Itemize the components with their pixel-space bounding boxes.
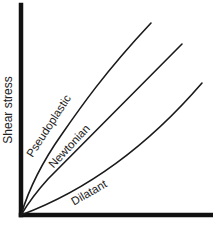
y-axis-label: Shear stress <box>1 76 15 143</box>
curve-dilatant <box>21 83 202 215</box>
rheology-chart: Shear stress Pseudoplastic Newtonian Dil… <box>0 0 213 225</box>
curve-pseudoplastic <box>21 23 151 215</box>
